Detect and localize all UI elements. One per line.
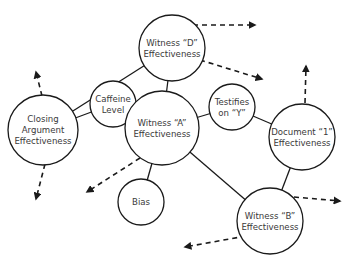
dashed-arrow-icon (305, 66, 306, 103)
node-label: Closing (27, 114, 58, 124)
dashed-arrow-icon (200, 60, 262, 79)
dashed-arrow-icon (294, 197, 340, 201)
node-witness-a: Witness “A”Effectiveness (125, 91, 199, 165)
node-label: Effectiveness (133, 129, 191, 139)
node-label: Testifies (214, 97, 250, 107)
node-label: Effectiveness (241, 222, 299, 232)
node-label: Document “1” (271, 127, 333, 137)
dashed-arrow-icon (36, 164, 45, 199)
dashed-arrow-icon (36, 72, 42, 96)
node-label: Caffeine (95, 94, 131, 104)
node-testifies-on-y: Testifieson “Y” (209, 84, 255, 130)
node-label: on “Y” (218, 108, 245, 118)
node-label: Effectiveness (273, 138, 331, 148)
node-label: Effectiveness (143, 49, 201, 59)
node-closing-argument: ClosingArgumentEffectiveness (8, 95, 78, 165)
node-label: Argument (22, 125, 65, 135)
bayesian-network-diagram: Witness “D”EffectivenessClosingArgumentE… (0, 0, 351, 262)
node-label: Level (102, 105, 125, 115)
node-bias: Bias (118, 179, 164, 225)
node-witness-d: Witness “D”Effectiveness (139, 15, 205, 81)
node-label: Witness “A” (137, 118, 186, 128)
node-label: Witness “B” (245, 211, 296, 221)
node-document-1: Document “1”Effectiveness (269, 104, 335, 170)
nodes: Witness “D”EffectivenessClosingArgumentE… (8, 15, 335, 254)
dashed-arrow-icon (185, 236, 246, 247)
node-label: Bias (132, 197, 151, 207)
node-label: Witness “D” (146, 38, 198, 48)
node-label: Effectiveness (14, 136, 72, 146)
node-witness-b: Witness “B”Effectiveness (237, 188, 303, 254)
